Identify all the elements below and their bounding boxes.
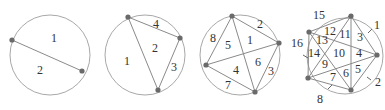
region-label: 7 xyxy=(330,70,336,84)
region-pointer xyxy=(328,85,332,89)
region-label: 1 xyxy=(247,33,253,47)
vertex-point xyxy=(374,52,379,57)
vertex-point xyxy=(252,89,257,94)
vertex-point xyxy=(155,87,160,92)
vertex-point xyxy=(9,37,14,42)
region-label: 14 xyxy=(308,46,320,60)
region-label: 15 xyxy=(313,8,325,22)
region-label: 1 xyxy=(124,54,130,68)
region-pointer xyxy=(368,29,372,33)
chord-diagrams: 1242132185643715112113161314104965728 xyxy=(0,0,385,110)
vertex-point xyxy=(125,14,130,19)
circle-figure-n4: 21856437 xyxy=(200,13,282,95)
region-label: 2 xyxy=(375,75,381,89)
region-label: 8 xyxy=(210,31,216,45)
vertex-point xyxy=(229,13,234,18)
region-label: 13 xyxy=(316,33,328,47)
vertex-point xyxy=(177,35,182,40)
region-label: 4 xyxy=(153,17,159,31)
vertex-point xyxy=(276,40,281,45)
chord-line xyxy=(12,40,82,71)
region-label: 2 xyxy=(152,41,158,55)
circle-outline xyxy=(10,15,90,95)
region-label: 6 xyxy=(255,55,261,69)
region-label: 7 xyxy=(225,78,231,92)
vertex-point xyxy=(348,87,353,92)
region-label: 3 xyxy=(357,30,363,44)
region-label: 10 xyxy=(333,46,345,60)
vertex-point xyxy=(306,29,311,34)
region-label: 2 xyxy=(37,63,43,77)
region-label: 5 xyxy=(355,62,361,76)
region-label: 1 xyxy=(51,31,57,45)
region-label: 2 xyxy=(257,17,263,31)
region-label: 11 xyxy=(339,27,351,41)
vertex-point xyxy=(79,68,84,73)
circle-figure-n3: 4213 xyxy=(105,14,185,95)
region-label: 9 xyxy=(322,57,328,71)
region-label: 4 xyxy=(233,63,239,77)
region-pointer xyxy=(367,77,371,80)
vertex-point xyxy=(203,62,208,67)
region-label: 16 xyxy=(291,36,303,50)
region-label: 4 xyxy=(356,46,362,60)
region-label: 8 xyxy=(317,92,323,106)
chord-line xyxy=(206,43,279,65)
region-label: 6 xyxy=(343,66,349,80)
region-label: 5 xyxy=(225,38,231,52)
vertex-point xyxy=(305,75,310,80)
circle-figure-n2: 12 xyxy=(9,15,90,95)
region-label: 3 xyxy=(268,64,274,78)
region-label: 3 xyxy=(171,60,177,74)
circle-figure-n5: 15112113161314104965728 xyxy=(291,8,383,106)
region-label: 1 xyxy=(374,18,380,32)
vertex-point xyxy=(348,13,353,18)
